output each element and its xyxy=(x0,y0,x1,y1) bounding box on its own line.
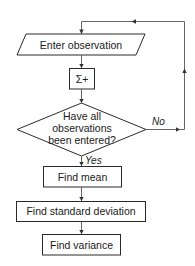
arrow-right-icon xyxy=(176,127,180,131)
flowchart: No Enter observation Σ+ Have all observa… xyxy=(0,0,195,266)
node-enter-observation: Enter observation xyxy=(17,34,145,55)
arrow-down-icon xyxy=(79,64,83,68)
yes-label: Yes xyxy=(85,155,102,166)
decision-line-3: been entered? xyxy=(48,134,116,146)
edge-stddev-variance xyxy=(79,222,83,235)
arrow-up-icon xyxy=(182,69,186,74)
decision-line-1: Have all xyxy=(63,110,101,122)
node-label: Find mean xyxy=(58,171,108,183)
node-find-standard-deviation: Find standard deviation xyxy=(17,202,146,222)
arrow-down-icon xyxy=(79,99,83,103)
edge-sum-decision xyxy=(79,89,83,103)
node-decision: Have all observations been entered? xyxy=(17,103,146,156)
node-label: Enter observation xyxy=(40,39,122,51)
arrow-down-icon xyxy=(79,230,83,234)
node-sum: Σ+ xyxy=(70,69,95,90)
edge-input-sum xyxy=(79,55,83,68)
node-label: Σ+ xyxy=(76,73,89,85)
decision-line-2: observations xyxy=(52,122,112,134)
arrow-down-icon xyxy=(79,197,83,201)
edge-mean-stddev xyxy=(79,187,83,201)
node-label: Find standard deviation xyxy=(26,205,135,217)
edge-yes xyxy=(79,156,83,166)
node-find-variance: Find variance xyxy=(43,235,121,256)
node-find-mean: Find mean xyxy=(44,167,122,188)
arrow-down-icon xyxy=(79,162,83,166)
no-label: No xyxy=(152,116,165,127)
arrow-down-icon xyxy=(79,30,83,35)
arrow-left-icon xyxy=(132,19,137,23)
node-label: Find variance xyxy=(50,239,113,251)
